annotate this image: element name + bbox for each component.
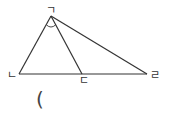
vertex-label-middle: ㄷ [79,74,89,87]
vertex-label-right: ㄹ [150,69,160,82]
segment-top-left [19,16,51,74]
triangle-diagram: ㄱ ㄴ ㄷ ㄹ ( [0,0,180,116]
angle-arc-icon [47,25,56,27]
vertex-label-top: ㄱ [46,4,56,17]
segment-top-right [51,16,147,74]
vertex-label-left: ㄴ [7,69,17,82]
bracket-text: ( [36,87,44,111]
